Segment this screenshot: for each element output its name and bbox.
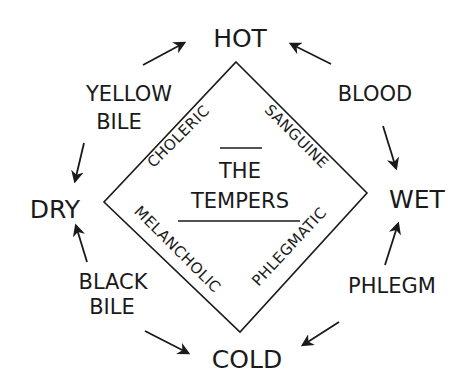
temperament-sanguine: SANGUINE	[261, 101, 332, 172]
arrow-blood-to-wet	[383, 126, 396, 168]
arrow-blackbile-to-dry	[76, 226, 87, 262]
humor-black-bile-line2: BILE	[89, 295, 135, 319]
quality-wet: WET	[389, 185, 446, 214]
humor-blood: BLOOD	[338, 82, 413, 106]
quality-cold: COLD	[212, 345, 282, 374]
arrow-phlegm-to-wet	[385, 224, 398, 265]
title-line-2: TEMPERS	[190, 189, 289, 213]
arrow-blackbile-to-cold	[145, 331, 188, 353]
quality-dry: DRY	[30, 195, 81, 224]
arrow-phlegm-to-cold	[303, 322, 339, 345]
temperament-choleric: CHOLERIC	[144, 102, 214, 172]
arrow-yellowbile-to-dry	[75, 143, 84, 181]
title-line-1: THE	[218, 159, 261, 183]
humor-black-bile-line1: BLACK	[78, 270, 148, 294]
arrow-blood-to-hot	[291, 44, 331, 64]
humor-yellow-bile-line1: YELLOW	[85, 82, 172, 106]
humor-phlegm: PHLEGM	[348, 274, 436, 298]
quality-hot: HOT	[213, 24, 267, 53]
arrow-yellowbile-to-hot	[143, 43, 184, 65]
tempers-diagram: THE TEMPERS CHOLERIC SANGUINE MELANCHOLI…	[0, 0, 469, 392]
humor-yellow-bile-line2: BILE	[96, 110, 142, 134]
